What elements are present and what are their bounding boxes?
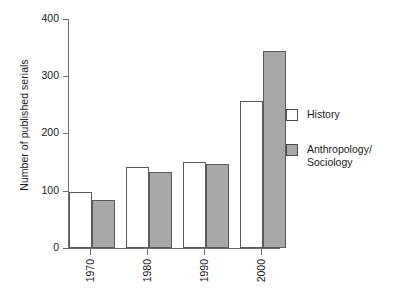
y-tick-label-300: 300 bbox=[41, 69, 59, 81]
y-tick-label-100: 100 bbox=[41, 184, 59, 196]
x-tick-label-1980: 1980 bbox=[140, 259, 154, 297]
bar-chart-figure: Number of published serials 400 300 200 … bbox=[0, 0, 396, 297]
y-axis-title-text: Number of published serials bbox=[18, 59, 30, 191]
x-tick-label-2000: 2000 bbox=[254, 259, 268, 297]
x-tick-1970 bbox=[90, 249, 91, 255]
bar-1990-anthropology-sociology bbox=[206, 164, 229, 248]
plot-area: 400 300 200 100 0 1970 1980 1990 2000 bbox=[68, 19, 280, 248]
x-tick-label-text: 1990 bbox=[198, 259, 210, 282]
y-tick-400: 400 bbox=[63, 19, 68, 20]
bar-1990-history bbox=[183, 162, 206, 248]
gray-swatch-icon bbox=[286, 144, 298, 156]
y-tick-200: 200 bbox=[63, 133, 68, 134]
legend-item-anthropology-sociology[interactable]: Anthropology/ Sociology bbox=[286, 143, 394, 169]
bar-1970-anthropology-sociology bbox=[92, 200, 115, 248]
y-axis-title: Number of published serials bbox=[14, 0, 34, 250]
x-tick-label-text: 1970 bbox=[84, 259, 96, 282]
chart-legend: History Anthropology/ Sociology bbox=[286, 108, 394, 191]
x-axis-line bbox=[68, 248, 280, 249]
x-tick-1990 bbox=[204, 249, 205, 255]
bar-1980-history bbox=[126, 167, 149, 248]
legend-label-history: History bbox=[307, 108, 340, 121]
y-tick-label-200: 200 bbox=[41, 126, 59, 138]
y-tick-label-0: 0 bbox=[53, 241, 59, 253]
x-tick-1980 bbox=[147, 249, 148, 255]
y-tick-label-400: 400 bbox=[41, 12, 59, 24]
y-tick-300: 300 bbox=[63, 76, 68, 77]
bar-1980-anthropology-sociology bbox=[149, 172, 172, 248]
bar-1970-history bbox=[69, 192, 92, 248]
x-tick-label-text: 1980 bbox=[141, 259, 153, 282]
legend-item-history[interactable]: History bbox=[286, 108, 394, 121]
x-tick-label-text: 2000 bbox=[255, 259, 267, 282]
x-tick-label-1990: 1990 bbox=[197, 259, 211, 297]
bar-2000-history bbox=[240, 101, 263, 248]
y-tick-100: 100 bbox=[63, 191, 68, 192]
white-swatch-icon bbox=[286, 109, 298, 121]
legend-label-anthropology-sociology: Anthropology/ Sociology bbox=[307, 143, 372, 169]
x-tick-label-1970: 1970 bbox=[83, 259, 97, 297]
x-tick-2000 bbox=[261, 249, 262, 255]
bar-2000-anthropology-sociology bbox=[263, 51, 286, 248]
y-tick-0: 0 bbox=[63, 248, 68, 249]
